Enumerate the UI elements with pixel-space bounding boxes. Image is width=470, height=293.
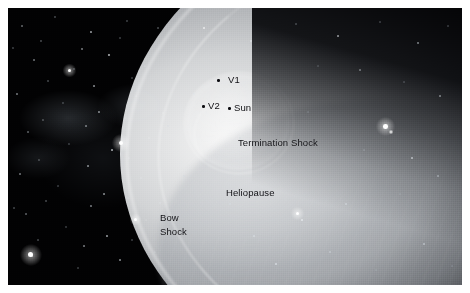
bright-star [28, 252, 33, 257]
voyager-2-label: V2 [208, 100, 220, 112]
bow-shock-label-line2: Shock [160, 226, 187, 238]
bright-star [68, 69, 71, 72]
heliosphere-figure: V1 V2 Sun Termination Shock Heliopause B… [0, 0, 470, 293]
termination-shock-label: Termination Shock [238, 137, 318, 149]
bright-star [134, 218, 137, 221]
bright-star [119, 141, 123, 145]
starfield-layer-foreground [8, 8, 462, 285]
heliopause-label: Heliopause [226, 187, 275, 199]
sun-label: Sun [234, 102, 251, 114]
bow-shock-label-line1: Bow [160, 212, 179, 224]
astronomy-image-plate: V1 V2 Sun Termination Shock Heliopause B… [8, 8, 462, 285]
bright-star [296, 212, 299, 215]
voyager-1-position-dot [217, 79, 220, 82]
voyager-1-label: V1 [228, 74, 240, 86]
bright-star [383, 124, 388, 129]
sun-position-dot [228, 107, 231, 110]
voyager-2-position-dot [202, 105, 205, 108]
